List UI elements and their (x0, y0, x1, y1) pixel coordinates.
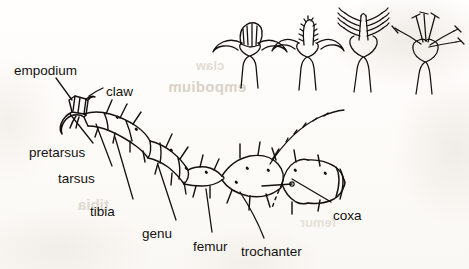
label-genu: genu (142, 227, 172, 241)
figure-canvas: empodium claw tibia femur (0, 0, 469, 269)
detail-empodium-feathery (338, 8, 389, 92)
label-tarsus: tarsus (58, 172, 95, 186)
leg-coxa (308, 155, 345, 211)
leg-tibia (148, 134, 189, 194)
label-trochanter: trochanter (241, 245, 302, 259)
label-claw: claw (106, 85, 133, 99)
leg-genu (184, 155, 224, 198)
detail-empodium-combed (272, 16, 344, 90)
detail-empodium-pad (213, 23, 287, 88)
label-tibia: tibia (90, 205, 115, 219)
leg-pretarsus (60, 96, 95, 134)
leg-diagram-artwork (0, 0, 469, 269)
long-dorsal-seta (270, 110, 344, 164)
label-femur: femur (193, 240, 228, 254)
leg-tarsus (84, 100, 151, 162)
label-pretarsus: pretarsus (29, 146, 85, 160)
label-empodium: empodium (14, 64, 77, 78)
detail-empodium-raylike (392, 12, 464, 94)
label-coxa: coxa (333, 209, 362, 223)
